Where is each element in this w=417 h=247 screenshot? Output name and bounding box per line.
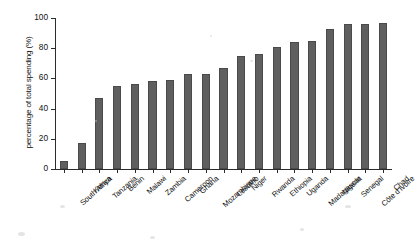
x-axis-tick: [188, 169, 189, 173]
x-axis-tick: [117, 169, 118, 173]
plot-area: 020406080100South AfricaKenyaTanzaniaBen…: [55, 18, 392, 169]
scan-artifact: [18, 232, 25, 236]
x-axis-label-wrap: Ghana: [198, 174, 221, 196]
bar: [202, 74, 210, 169]
bar: [290, 42, 298, 169]
scan-artifact: [60, 205, 65, 208]
y-axis-tick: 20: [51, 139, 55, 140]
x-axis-tick-label: Zambia: [163, 174, 187, 197]
x-axis-tick: [64, 169, 65, 173]
x-axis-tick: [170, 169, 171, 173]
bar: [148, 81, 156, 169]
bar: [255, 54, 263, 169]
x-axis-tick: [365, 169, 366, 173]
y-axis-tick-label: 40: [39, 103, 48, 113]
bar: [166, 80, 174, 169]
scan-artifact: [300, 228, 304, 231]
bar: [273, 47, 281, 169]
y-axis-tick: 60: [51, 78, 55, 79]
x-axis-tick: [99, 169, 100, 173]
y-axis-tick: 100: [51, 18, 55, 19]
x-axis-tick: [82, 169, 83, 173]
y-axis-tick-label: 20: [39, 133, 48, 143]
scan-artifact: [150, 236, 155, 239]
y-axis-tick: 80: [51, 48, 55, 49]
x-axis-tick: [312, 169, 313, 173]
bar: [379, 23, 387, 169]
bar: [237, 56, 245, 169]
x-axis-tick-label: Ghana: [198, 174, 221, 196]
bar: [60, 161, 68, 169]
y-axis-tick-label: 100: [34, 12, 48, 22]
bar: [113, 86, 121, 169]
x-axis-tick: [348, 169, 349, 173]
x-axis-tick: [241, 169, 242, 173]
x-axis-tick: [224, 169, 225, 173]
x-axis-tick: [294, 169, 295, 173]
x-axis-tick-label: Senegal: [359, 174, 385, 199]
bar: [219, 68, 227, 169]
x-axis-label-wrap: Senegal: [359, 174, 385, 199]
y-axis-line: [55, 18, 56, 170]
x-axis-label-wrap: Zambia: [163, 174, 187, 197]
y-axis-label: percentage of total spending (%): [24, 13, 33, 173]
y-axis-tick: 40: [51, 109, 55, 110]
x-axis-tick: [330, 169, 331, 173]
x-axis-tick: [277, 169, 278, 173]
bar: [344, 24, 352, 169]
scan-artifact: [345, 205, 351, 208]
bar: [131, 84, 139, 169]
y-axis-tick-label: 0: [43, 163, 48, 173]
bar: [78, 143, 86, 169]
y-axis-tick: 0: [51, 169, 55, 170]
bar: [361, 24, 369, 169]
bar: [326, 29, 334, 169]
bar: [184, 74, 192, 169]
y-axis-tick-label: 80: [39, 42, 48, 52]
x-axis-tick: [206, 169, 207, 173]
bar: [308, 41, 316, 169]
x-axis-tick: [259, 169, 260, 173]
x-axis-tick: [153, 169, 154, 173]
y-axis-tick-label: 60: [39, 72, 48, 82]
bar: [95, 98, 103, 169]
x-axis-tick: [383, 169, 384, 173]
x-axis-tick: [135, 169, 136, 173]
